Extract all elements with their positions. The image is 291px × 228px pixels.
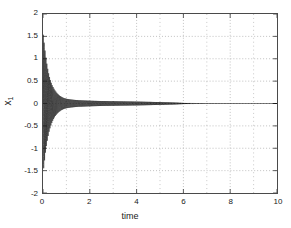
plot-area — [42, 13, 278, 194]
y-axis-label-base: x — [2, 100, 13, 105]
x-axis-label: time — [0, 211, 291, 221]
x-axis-tick-label: 0 — [40, 198, 44, 206]
y-axis-tick-label: 1.5 — [27, 32, 38, 40]
y-axis-tick-label: -1 — [31, 145, 38, 153]
x-axis-tick-labels: 0246810 — [0, 198, 291, 210]
x-axis-tick-label: 4 — [134, 198, 138, 206]
y-axis-tick-label: -1.5 — [24, 167, 38, 175]
y-axis-tick-label: -2 — [31, 190, 38, 198]
x-axis-tick-label: 10 — [274, 198, 283, 206]
y-axis-tick-label: 0.5 — [27, 77, 38, 85]
y-axis-tick-label: 2 — [34, 9, 38, 17]
data-series-layer — [43, 14, 277, 193]
figure-canvas: -2-1.5-1-0.500.511.52 0246810 time x1 — [0, 0, 291, 228]
data-series-x1 — [43, 35, 277, 169]
y-axis-label: x1 — [2, 79, 14, 123]
y-axis-tick-label: 1 — [34, 54, 38, 62]
x-axis-tick-label: 6 — [181, 198, 185, 206]
x-axis-tick-label: 8 — [229, 198, 233, 206]
y-axis-tick-label: -0.5 — [24, 122, 38, 130]
y-axis-label-subscript: 1 — [7, 97, 14, 101]
x-axis-label-text: time — [121, 211, 138, 221]
y-axis-tick-label: 0 — [34, 100, 38, 108]
x-axis-tick-label: 2 — [87, 198, 91, 206]
